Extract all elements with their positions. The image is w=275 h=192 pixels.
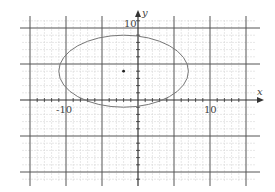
y-axis-arrow-icon (135, 10, 141, 17)
coordinate-plane: -10 10 10 x y (0, 0, 275, 192)
y-axis-label: y (141, 7, 148, 18)
x-tick-label-10: 10 (204, 104, 217, 115)
y-tick-label-10: 10 (124, 18, 137, 29)
x-axis-arrow-icon (257, 97, 264, 103)
center-point (122, 70, 125, 73)
x-axis-label: x (257, 86, 263, 97)
x-tick-label-neg10: -10 (56, 104, 72, 115)
